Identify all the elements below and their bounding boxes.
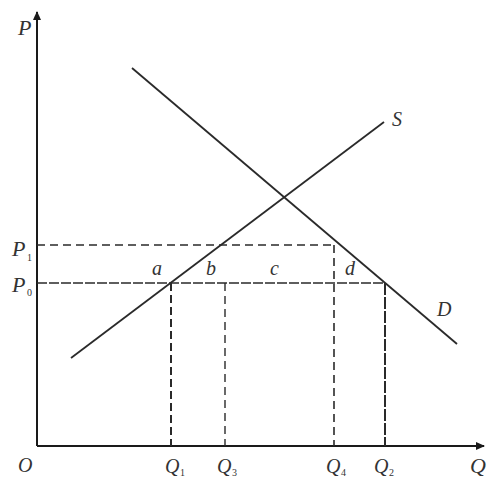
q2-label: Q 2	[374, 455, 394, 478]
svg-text:P: P	[11, 236, 25, 261]
svg-text:Q: Q	[374, 455, 389, 477]
svg-text:4: 4	[341, 467, 346, 478]
supply-demand-diagram: P Q O S D P 1 P 0 Q 1 Q 3 Q 4 Q 2 a b c …	[0, 0, 494, 500]
supply-label: S	[392, 108, 402, 130]
p0-label: P 0	[11, 272, 32, 298]
q1-label: Q 1	[165, 455, 185, 478]
svg-text:Q: Q	[326, 455, 341, 477]
svg-text:P: P	[11, 272, 25, 297]
q3-label: Q 3	[217, 455, 237, 478]
svg-text:Q: Q	[165, 455, 180, 477]
demand-curve	[132, 68, 457, 344]
origin-label: O	[18, 454, 32, 476]
demand-label: D	[436, 298, 452, 320]
x-axis-label: Q	[470, 453, 486, 478]
area-label-a: a	[152, 257, 162, 279]
area-label-d: d	[345, 257, 356, 279]
p1-label: P 1	[11, 236, 32, 263]
supply-curve	[71, 122, 384, 358]
y-axis-label: P	[17, 15, 31, 40]
svg-text:1: 1	[180, 467, 185, 478]
svg-text:Q: Q	[217, 455, 232, 477]
svg-text:3: 3	[232, 467, 237, 478]
svg-text:2: 2	[389, 467, 394, 478]
area-label-c: c	[270, 257, 279, 279]
area-label-b: b	[206, 257, 216, 279]
q4-label: Q 4	[326, 455, 346, 478]
svg-text:1: 1	[27, 252, 32, 263]
svg-text:0: 0	[27, 287, 32, 298]
